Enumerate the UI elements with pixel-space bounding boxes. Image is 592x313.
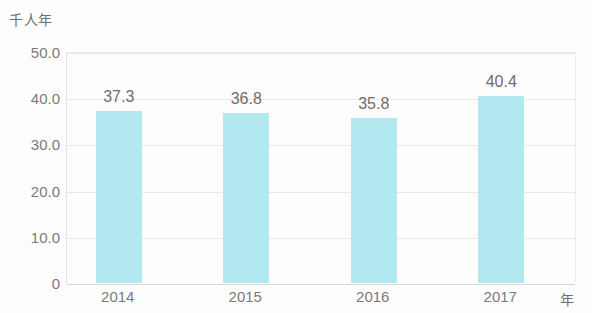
x-axis-tick-label: 2016 (356, 288, 389, 305)
gridline (67, 284, 575, 285)
x-axis-tick-label: 2014 (101, 288, 134, 305)
bar (351, 118, 397, 283)
bar-value-label: 36.8 (206, 90, 286, 108)
y-axis-tick-label: 0 (2, 275, 60, 292)
y-axis-tick-label: 50.0 (2, 44, 60, 61)
bar-value-label: 37.3 (79, 88, 159, 106)
x-axis-tick-label: 2015 (229, 288, 262, 305)
bar-value-label: 35.8 (334, 95, 414, 113)
bar (478, 96, 524, 283)
y-axis-unit-label: 千人年 (9, 9, 53, 29)
x-axis-tick-label: 2017 (484, 288, 517, 305)
x-axis-unit-label: 年 (560, 289, 574, 309)
bar-value-label: 40.4 (461, 73, 541, 91)
bar-chart: 千人年 010.020.030.040.050.0 37.336.835.840… (0, 0, 592, 313)
y-axis-tick-labels: 010.020.030.040.050.0 (0, 52, 60, 283)
bar (223, 113, 269, 283)
y-axis-tick-label: 30.0 (2, 136, 60, 153)
bars-layer: 37.336.835.840.4 (67, 53, 575, 283)
y-axis-tick-label: 10.0 (2, 228, 60, 245)
plot-area: 37.336.835.840.4 (66, 52, 576, 283)
x-axis-tick-labels: 2014201520162017 (66, 288, 576, 310)
bar (96, 111, 142, 283)
y-axis-tick-label: 20.0 (2, 182, 60, 199)
y-axis-tick-label: 40.0 (2, 90, 60, 107)
